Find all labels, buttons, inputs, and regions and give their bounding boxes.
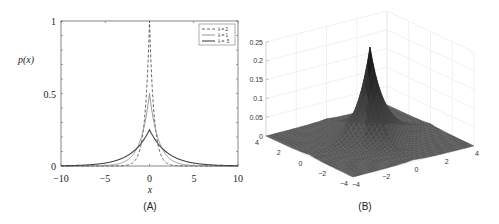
left-axis-tick-label: 0 <box>299 160 303 167</box>
xtick-label-5: 5 <box>192 173 197 184</box>
right-axis-tick-label: −2 <box>382 173 390 180</box>
z-tick-label: 0.15 <box>249 76 263 83</box>
z-tick-labels: 00.050.10.150.20.25 <box>249 39 263 140</box>
left-axis-tick-label: 4 <box>255 139 259 146</box>
z-tick-mark <box>266 42 269 43</box>
panel-label-b: (B) <box>358 201 371 212</box>
x-axis-label: x <box>147 184 153 195</box>
xtick-label--10: −10 <box>53 173 69 184</box>
z-tick-mark <box>266 117 269 118</box>
z-tick-mark <box>266 79 269 80</box>
right-axis-tick-label: 4 <box>475 150 479 157</box>
left-axis-tick-label: −4 <box>340 180 348 187</box>
legend-box <box>199 24 235 45</box>
z-tick-label: 0 <box>259 133 263 140</box>
z-tick-mark <box>266 60 269 61</box>
legend-label: λ = 1 <box>218 33 229 38</box>
figure: 1 0.5 0 −10 −5 0 5 10 x p(x) λ = 2λ = 1λ… <box>0 0 499 224</box>
xtick-label-0: 0 <box>147 173 152 184</box>
z-tick-label: 0.05 <box>249 114 263 121</box>
legend-label: λ = 2 <box>218 27 229 32</box>
legend-a: λ = 2λ = 1λ = .5 <box>199 24 235 45</box>
panel-a-line-chart: 1 0.5 0 −10 −5 0 5 10 x p(x) λ = 2λ = 1λ… <box>17 16 243 212</box>
legend-label: λ = .5 <box>218 39 230 44</box>
panel-b-surface-plot: 00.050.10.150.20.25 420−2−4 −4−2024 (B) <box>249 11 479 212</box>
left-axis-tick-label: −2 <box>318 170 326 177</box>
panel-label-a: (A) <box>143 201 156 212</box>
ytick-label-0: 0 <box>51 161 56 172</box>
xtick-label-10: 10 <box>233 173 243 184</box>
z-tick-mark <box>266 98 269 99</box>
z-tick-label: 0.25 <box>249 39 263 46</box>
surface-mesh-b <box>266 47 474 177</box>
z-tick-label: 0.2 <box>253 57 263 64</box>
right-axis-tick-label: 2 <box>445 158 449 165</box>
y-axis-label: p(x) <box>17 54 35 66</box>
ytick-label-1: 1 <box>51 16 56 27</box>
z-tick-label: 0.1 <box>253 95 263 102</box>
ytick-label-0.5: 0.5 <box>44 89 57 100</box>
right-axis-tick-label: −4 <box>352 181 360 188</box>
right-axis-tick-label: 0 <box>415 166 419 173</box>
left-axis-tick-label: 2 <box>277 149 281 156</box>
xtick-label--5: −5 <box>100 173 111 184</box>
